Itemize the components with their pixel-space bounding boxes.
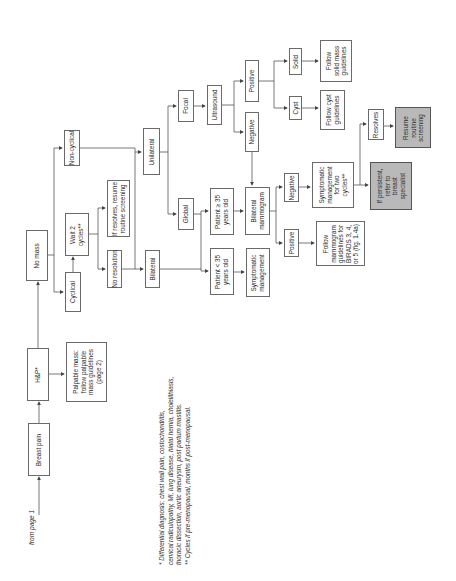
node-if-persistent-refer: If persistent, refer to breast specialis… — [370, 162, 412, 210]
node-label: Global — [182, 205, 190, 223]
node-label: Resume routine screening — [402, 114, 425, 142]
node-label: Follow mammogram guidelines for BIRADS 3… — [322, 224, 360, 264]
node-label: Focal — [182, 98, 190, 114]
node-resume-routine: Resume routine screening — [395, 107, 431, 148]
node-label: No mass — [33, 243, 41, 268]
node-bilateral-mammogram: Bilateral mammogram — [245, 187, 270, 235]
node-us-positive: Positive — [245, 60, 259, 102]
node-label: Ultrasound — [211, 90, 219, 121]
node-label: Breast pain — [35, 433, 43, 465]
node-label: Patient ≥ 35 years old — [214, 194, 229, 228]
node-label: If persistent, refer to breast specialis… — [376, 169, 406, 204]
node-patient-lt-35: Patient < 35 years old — [210, 248, 234, 295]
node-h-and-p: H&P* — [27, 348, 49, 401]
node-solid: Solid — [289, 48, 302, 75]
from-page-label: from page 1 — [28, 510, 35, 545]
node-label: No resolution — [111, 250, 119, 288]
node-label: If resolves, resume routine screening — [111, 182, 126, 236]
node-focal: Focal — [178, 90, 194, 122]
node-label: Positive — [288, 232, 296, 254]
node-label: Negative — [288, 175, 296, 200]
node-label: Resolves — [372, 111, 380, 137]
node-label: Symptomatic management — [250, 254, 265, 291]
node-no-mass: No mass — [26, 230, 48, 281]
node-if-resolves-resume: If resolves, resume routine screening — [107, 180, 130, 237]
node-cyst: Cyst — [289, 96, 302, 120]
node-label: Solid — [292, 54, 300, 68]
node-breast-pain: Breast pain — [28, 423, 50, 476]
node-label: Wait 2 cycles** — [69, 223, 84, 246]
node-resolves: Resolves — [368, 109, 384, 140]
node-follow-mammogram: Follow mammogram guidelines for BIRADS 3… — [316, 221, 365, 266]
node-unilateral: Unilateral — [143, 128, 160, 175]
node-label: Follow cyst guidelines — [325, 94, 340, 126]
node-label: Negative — [248, 119, 256, 144]
node-label: Cyst — [292, 102, 300, 115]
node-wait-2-cycles: Wait 2 cycles** — [65, 213, 89, 256]
node-patient-ge-35: Patient ≥ 35 years old — [210, 188, 234, 235]
node-global: Global — [178, 198, 194, 230]
node-cyclical: Cyclical — [65, 272, 81, 312]
node-label: Symptomatic management for two cycles** — [318, 166, 348, 203]
node-us-negative: Negative — [245, 112, 259, 152]
node-label: Bilateral mammogram — [250, 192, 265, 230]
node-label: Positive — [248, 70, 256, 92]
node-mammo-positive: Positive — [284, 229, 299, 257]
footnotes: * Differential diagnosis: chest wall pai… — [158, 265, 192, 565]
node-follow-cyst: Follow cyst guidelines — [320, 90, 345, 130]
node-no-resolution: No resolution — [107, 250, 122, 288]
node-label: Cyclical — [69, 281, 77, 303]
node-label: Bilateral — [149, 257, 157, 280]
node-label: H&P* — [34, 367, 42, 383]
node-label: Patient < 35 years old — [214, 254, 229, 288]
node-follow-solid: Follow solid mass guidelines — [320, 40, 352, 82]
node-symptomatic-two-cycles: Symptomatic management for two cycles** — [312, 162, 354, 208]
node-non-cyclical: Non-cyclical — [64, 130, 80, 166]
node-label: Palpable mass: follow palpable mass guid… — [71, 349, 101, 395]
node-label: Non-cyclical — [68, 131, 76, 165]
node-label: Follow solid mass guidelines — [325, 46, 348, 76]
node-symptomatic-management: Symptomatic management — [246, 248, 270, 297]
node-label: Unilateral — [148, 138, 156, 165]
node-mammo-negative: Negative — [284, 173, 299, 202]
node-palpable-mass: Palpable mass: follow palpable mass guid… — [66, 342, 107, 402]
node-ultrasound: Ultrasound — [207, 85, 222, 125]
